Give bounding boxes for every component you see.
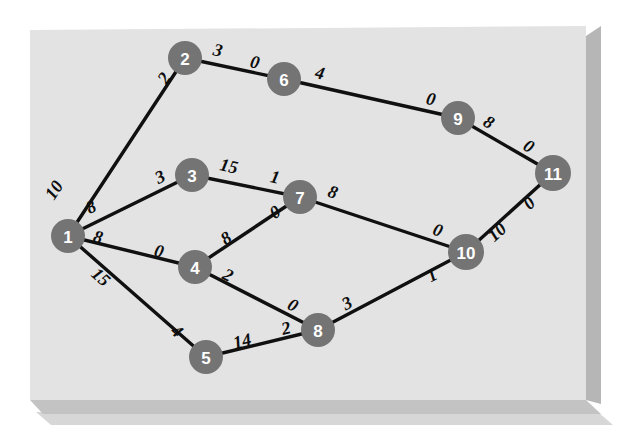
node-label: 6 — [279, 71, 288, 90]
graph-node-9[interactable]: 9 — [441, 101, 475, 135]
graph-node-5[interactable]: 5 — [189, 340, 223, 374]
node-label: 2 — [180, 50, 189, 69]
node-label: 3 — [187, 167, 196, 186]
node-label: 5 — [201, 349, 210, 368]
graph-node-8[interactable]: 8 — [301, 313, 335, 347]
panel-bevel-right — [586, 26, 601, 404]
node-label: 7 — [295, 189, 304, 208]
graph-node-3[interactable]: 3 — [175, 158, 209, 192]
graph-node-10[interactable]: 10 — [448, 234, 484, 270]
node-label: 10 — [457, 244, 476, 263]
graph-diagram: 1234567891011 10283801543015180201424080… — [0, 0, 627, 441]
graph-node-4[interactable]: 4 — [178, 250, 212, 284]
node-label: 11 — [544, 165, 562, 184]
graph-node-6[interactable]: 6 — [267, 62, 301, 96]
node-label: 9 — [453, 110, 462, 129]
node-label: 4 — [190, 259, 200, 278]
graph-node-11[interactable]: 11 — [535, 155, 571, 191]
node-label: 1 — [63, 228, 72, 247]
graph-node-2[interactable]: 2 — [168, 41, 202, 75]
graph-node-1[interactable]: 1 — [51, 219, 85, 253]
panel-bevel-bottom — [30, 400, 601, 414]
graph-node-7[interactable]: 7 — [283, 180, 317, 214]
figure-stage: 1234567891011 10283801543015180201424080… — [0, 0, 627, 441]
node-label: 8 — [313, 322, 322, 341]
